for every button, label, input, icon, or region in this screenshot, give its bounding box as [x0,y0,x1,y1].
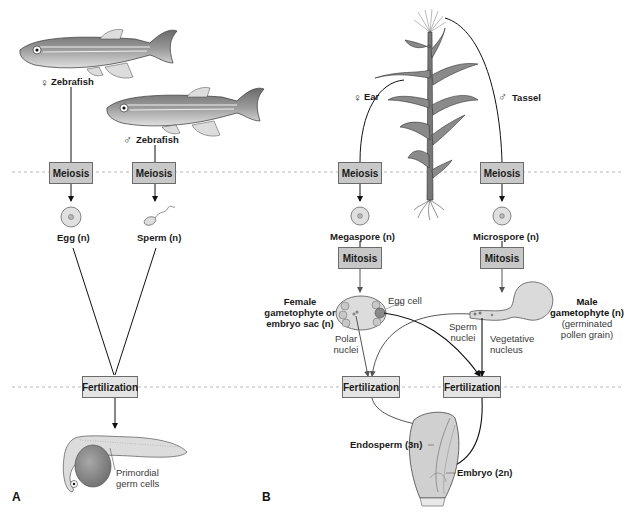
panel-a-label: A [12,490,21,504]
male-gametophyte-sub-line-2: pollen grain) [548,329,626,340]
megaspore-illustration [351,207,369,225]
embryo-label: Embryo (2n) [457,467,512,478]
vegetative-nucleus-label: Vegetative nucleus [490,333,534,355]
tassel-label: Tassel [512,92,541,103]
male-gametophyte-label: Male gametophyte (n) (germinated pollen … [548,296,626,340]
embryo-sac-illustration [336,296,386,330]
sperm-illustration [143,206,175,227]
male-gametophyte-line-1: Male [548,296,626,307]
primordial-germ-cells-label: Primordial germ cells [116,467,159,489]
meiosis-box-ear: Meiosis [338,162,382,184]
ear-label: Ear [364,91,379,102]
meiosis-box-female-zebrafish: Meiosis [49,162,93,184]
female-gametophyte-label: Female gametophyte or embryo sac (n) [262,296,338,329]
sperm-nuclei-line-1: Sperm [445,321,481,332]
meiosis-box-tassel: Meiosis [480,162,524,184]
male-gametophyte-sub-line-1: (germinated [548,318,626,329]
microspore-label: Microspore (n) [473,231,539,242]
female-symbol-icon: ♀ [40,76,49,90]
sperm-nuclei-line-2: nuclei [445,332,481,343]
polar-nuclei-line-2: nuclei [328,344,364,355]
female-zebrafish-illustration [20,29,177,78]
polar-nuclei-line-1: Polar [328,333,364,344]
mitosis-box-male: Mitosis [480,247,524,269]
egg-illustration [61,207,81,227]
fertilization-box-zebrafish: Fertilization [82,376,138,398]
female-gametophyte-line-3: embryo sac (n) [262,318,338,329]
megaspore-label: Megaspore (n) [330,231,395,242]
diagram-canvas [0,0,628,513]
vegetative-nucleus-line-2: nucleus [490,344,534,355]
endosperm-label: Endosperm (3n) [350,439,422,450]
male-zebrafish-illustration [107,87,264,136]
female-gametophyte-line-1: Female [262,296,338,307]
panel-b-label: B [262,490,271,504]
fertilization-box-embryo: Fertilization [443,376,501,398]
vegetative-nucleus-line-1: Vegetative [490,333,534,344]
sperm-nuclei-label: Sperm nuclei [445,321,481,343]
microspore-illustration [493,207,511,225]
meiosis-box-male-zebrafish: Meiosis [132,162,176,184]
polar-nuclei-label: Polar nuclei [328,333,364,355]
egg-label: Egg (n) [57,232,90,243]
fertilization-box-endosperm: Fertilization [342,376,400,398]
pollen-grain-illustration [470,282,553,320]
egg-cell-label: Egg cell [388,295,422,306]
primordial-germ-cells-line-2: germ cells [116,478,159,489]
mitosis-box-female: Mitosis [338,247,382,269]
male-gametophyte-line-2: gametophyte (n) [548,307,626,318]
sperm-label: Sperm (n) [137,232,181,243]
corn-kernel-illustration [409,412,459,506]
primordial-germ-cells-line-1: Primordial [116,467,159,478]
female-symbol-icon: ♀ [353,91,362,105]
corn-plant-illustration [375,9,478,220]
female-gametophyte-line-2: gametophyte or [262,307,338,318]
male-zebrafish-label: Zebrafish [136,134,179,145]
female-zebrafish-label: Zebrafish [51,76,94,87]
male-symbol-icon: ♂ [123,133,132,147]
male-symbol-icon: ♂ [498,90,507,104]
